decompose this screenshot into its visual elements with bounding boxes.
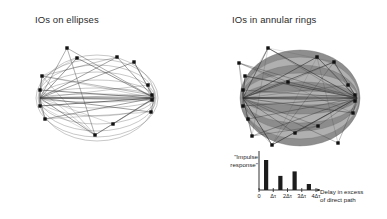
chart-bar-2 <box>293 171 297 190</box>
chart-tick-label-4: 4Δτ <box>311 193 320 199</box>
chart-y-axis-label-line1: "Impulse <box>218 153 258 161</box>
chart-y-axis-label: "Impulse response" <box>218 153 258 169</box>
chart-tick-label-2: 2Δτ <box>283 193 292 199</box>
chart-x-axis-label-line2: of direct path <box>320 196 382 204</box>
impulse-response-bar-chart <box>0 0 387 219</box>
chart-bar-1 <box>278 176 282 190</box>
chart-bars <box>264 160 311 190</box>
chart-tick-label-3: 3Δτ <box>297 193 306 199</box>
figure-canvas: IOs on ellipses IOs in annular rings "Im… <box>0 0 387 219</box>
chart-tick-label-0: 0 <box>257 193 260 199</box>
chart-bar-0 <box>264 160 268 190</box>
chart-x-axis-label: Delay in excess of direct path <box>320 188 382 204</box>
chart-bar-3 <box>307 184 311 190</box>
chart-tick-label-1: Δτ <box>270 193 276 199</box>
chart-x-axis-label-line1: Delay in excess <box>320 188 382 196</box>
chart-y-axis-label-line2: response" <box>218 161 258 169</box>
